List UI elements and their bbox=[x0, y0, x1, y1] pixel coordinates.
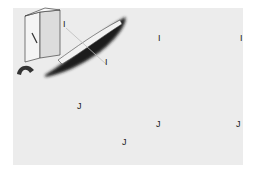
bottom-section-label-right: J bbox=[236, 120, 241, 129]
bottom-object-label-lower: J bbox=[122, 138, 127, 147]
top-object-label-lower: I bbox=[105, 58, 108, 67]
bottom-section-label-left: J bbox=[156, 120, 161, 129]
top-object bbox=[17, 8, 126, 77]
top-prism-front bbox=[25, 12, 40, 62]
bottom-object-label-upper: J bbox=[77, 102, 82, 111]
top-prism-side bbox=[40, 10, 60, 58]
diagram-canvas bbox=[0, 0, 257, 177]
top-section-label-right: I bbox=[240, 34, 243, 43]
top-curl bbox=[17, 66, 34, 75]
top-section-label-left: I bbox=[158, 34, 161, 43]
top-object-label-upper: I bbox=[63, 20, 66, 29]
